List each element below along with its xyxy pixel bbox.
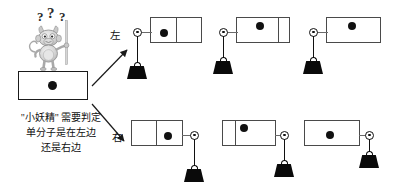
right-stage-3-weight-body xyxy=(359,155,379,168)
right-stage-1-weight-body xyxy=(184,169,204,182)
left-stage-3-molecule xyxy=(348,22,356,30)
right-stage-2-cord xyxy=(284,139,285,161)
right-stage-3-weight xyxy=(359,151,379,168)
left-stage-2-cord xyxy=(223,36,224,58)
right-stage-2-molecule xyxy=(240,124,248,132)
left-stage-2-chamber xyxy=(236,17,290,43)
caption-line-1: "小妖精" 需要判定 xyxy=(6,110,116,125)
right-stage-1-divider xyxy=(156,120,157,146)
left-stage-3-cord xyxy=(313,36,314,58)
left-stage-3-weight-body xyxy=(303,61,323,74)
left-stage-1-cord xyxy=(137,36,138,63)
right-stage-3-molecule xyxy=(326,131,334,139)
left-stage-2-divider xyxy=(278,17,279,43)
left-stage-2-weight-body xyxy=(213,61,233,74)
right-stage-1-cord xyxy=(194,139,195,166)
left-stage-1-weight-body xyxy=(127,66,147,79)
right-stage-1-weight xyxy=(184,165,204,182)
caption-line-2: 单分子是在左边 xyxy=(6,125,116,140)
right-stage-2-chamber xyxy=(222,120,276,146)
left-stage-1-divider xyxy=(176,17,177,43)
left-stage-2-weight xyxy=(213,57,233,74)
arrow-to-left-branch xyxy=(92,50,127,86)
left-stage-2-molecule xyxy=(256,22,264,30)
left-stage-1-molecule xyxy=(160,29,168,37)
right-stage-1-molecule xyxy=(164,132,172,140)
right-stage-2-weight xyxy=(274,160,294,177)
left-stage-3-chamber xyxy=(326,17,381,43)
left-stage-3-weight xyxy=(303,57,323,74)
left-stage-1-weight xyxy=(127,62,147,79)
figure-canvas: ? ? ? xyxy=(0,0,393,191)
right-stage-2-weight-body xyxy=(274,164,294,177)
right-stage-2-divider xyxy=(235,120,236,146)
caption-line-3: 还是右边 xyxy=(6,140,116,155)
label-left: 左 xyxy=(110,31,120,42)
